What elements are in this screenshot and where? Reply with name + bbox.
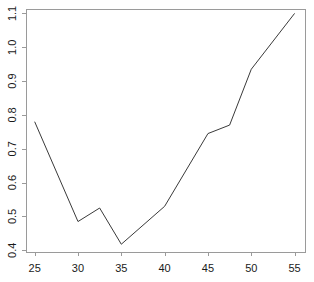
y-tick-label: 0.8: [6, 107, 18, 122]
x-tick-label: 40: [159, 262, 171, 274]
y-tick-label: 0.9: [6, 73, 18, 88]
line-chart: 0.40.50.60.70.80.91.01.1 25303540455055: [0, 0, 314, 282]
y-tick-label: 0.7: [6, 141, 18, 156]
x-tick-label: 55: [288, 262, 300, 274]
x-tick-label: 35: [115, 262, 127, 274]
x-tick-label: 45: [202, 262, 214, 274]
chart-container: 0.40.50.60.70.80.91.01.1 25303540455055: [0, 0, 314, 282]
chart-background: [0, 0, 314, 282]
x-tick-label: 30: [72, 262, 84, 274]
y-tick-label: 0.4: [6, 243, 18, 258]
y-tick-label: 1.1: [6, 6, 18, 21]
y-tick-label: 1.0: [6, 40, 18, 55]
y-tick-label: 0.6: [6, 175, 18, 190]
x-tick-label: 50: [245, 262, 257, 274]
y-tick-label: 0.5: [6, 209, 18, 224]
x-tick-label: 25: [29, 262, 41, 274]
